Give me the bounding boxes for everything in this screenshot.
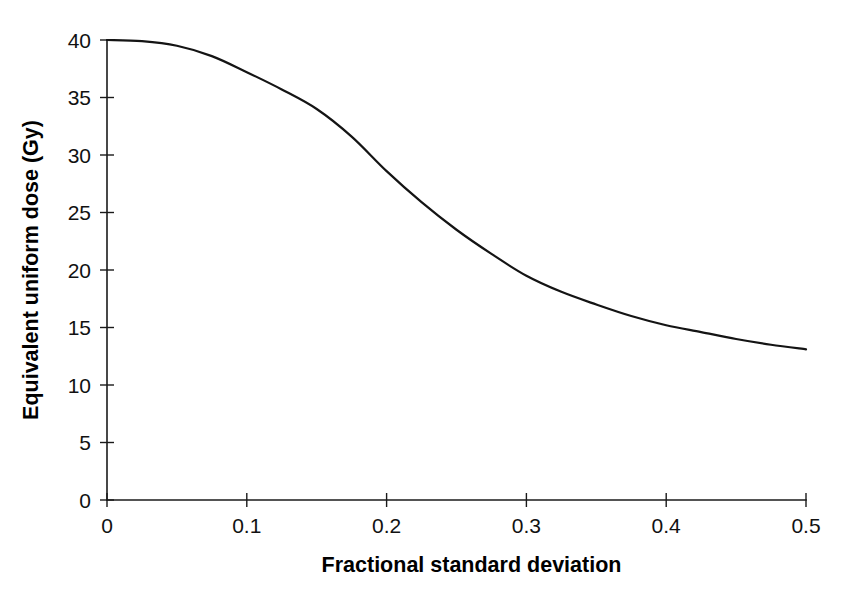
x-axis-title: Fractional standard deviation (322, 553, 622, 577)
x-tick-label: 0.3 (512, 514, 541, 537)
x-tick-label: 0.5 (791, 514, 820, 537)
y-tick-label: 40 (68, 29, 91, 52)
chart-figure: 00.10.20.30.40.5 0510152025303540 Fracti… (0, 0, 846, 600)
y-axis-title: Equivalent uniform dose (Gy) (19, 120, 43, 420)
x-tick-label: 0 (101, 514, 113, 537)
x-tick-labels-group: 00.10.20.30.40.5 (101, 514, 820, 537)
x-tick-label: 0.2 (372, 514, 401, 537)
y-tick-label: 30 (68, 144, 91, 167)
y-tick-label: 0 (79, 489, 91, 512)
data-series-line (107, 40, 806, 349)
tick-marks-group (100, 40, 806, 507)
y-tick-label: 25 (68, 201, 91, 224)
y-tick-label: 20 (68, 259, 91, 282)
y-tick-label: 15 (68, 316, 91, 339)
chart-plot-svg: 00.10.20.30.40.5 0510152025303540 Fracti… (0, 0, 846, 600)
y-tick-label: 35 (68, 86, 91, 109)
y-tick-labels-group: 0510152025303540 (68, 29, 91, 512)
x-tick-label: 0.1 (232, 514, 261, 537)
y-tick-label: 5 (79, 431, 91, 454)
y-tick-label: 10 (68, 374, 91, 397)
x-tick-label: 0.4 (652, 514, 682, 537)
axes-group (107, 40, 806, 500)
